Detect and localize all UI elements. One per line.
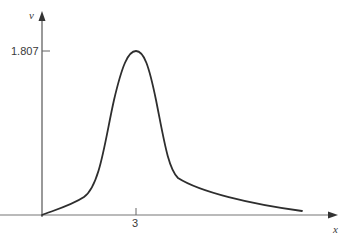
x-tick-label: 3 — [132, 217, 138, 229]
y-axis-arrow-icon — [39, 11, 46, 21]
y-tick-label: 1.807 — [11, 45, 39, 57]
y-axis-label: v — [29, 9, 34, 21]
x-axis-arrow-icon — [328, 212, 338, 219]
x-axis-label: x — [332, 223, 338, 235]
curve-line — [42, 51, 302, 215]
chart: v x 1.807 3 — [0, 0, 349, 245]
